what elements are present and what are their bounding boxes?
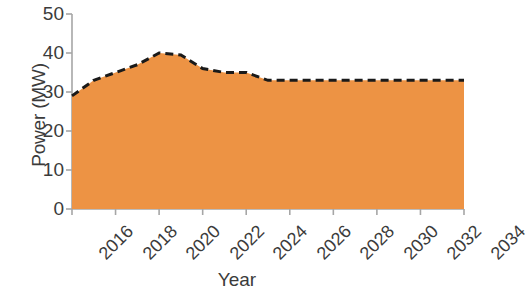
x-tick-label: 2034 xyxy=(487,221,529,264)
x-tick-label: 2024 xyxy=(269,221,312,264)
x-tick-label: 2028 xyxy=(356,221,399,264)
x-tick-label: 2016 xyxy=(95,221,138,264)
x-axis-title: Year xyxy=(0,269,474,291)
x-tick-label: 2018 xyxy=(138,221,181,264)
x-tick-label: 2030 xyxy=(400,221,443,264)
x-tick-label: 2032 xyxy=(443,221,486,264)
x-tick-label: 2020 xyxy=(182,221,225,264)
x-tick-label: 2026 xyxy=(312,221,355,264)
x-tick-label: 2022 xyxy=(225,221,268,264)
